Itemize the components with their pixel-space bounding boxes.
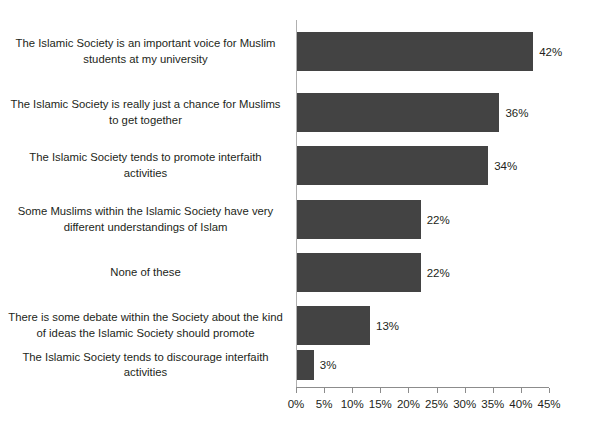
plot-area: 42%36%34%22%22%13%3% [296, 20, 549, 387]
bar [297, 253, 421, 292]
category-label: The Islamic Society is really just a cha… [0, 93, 291, 132]
bar-value-label: 36% [499, 107, 528, 119]
bar-row: 3% [296, 350, 549, 380]
x-axis-tick [493, 388, 494, 393]
bar [297, 93, 499, 132]
x-axis-tick-label: 15% [369, 396, 392, 412]
x-axis-tick-label: 0% [288, 396, 305, 412]
bar [297, 200, 421, 239]
x-axis-tick-labels: 0%5%10%15%20%25%30%35%40%45% [296, 396, 549, 414]
bar [297, 306, 370, 345]
x-axis-tick [437, 388, 438, 393]
x-axis-tick-label: 30% [453, 396, 476, 412]
x-axis-tick-label: 45% [537, 396, 560, 412]
bar-row: 22% [296, 253, 549, 292]
bar [297, 32, 533, 71]
x-axis-tick [380, 388, 381, 393]
bar-row: 36% [296, 93, 549, 132]
category-label: None of these [0, 253, 291, 292]
x-axis-tick-label: 35% [481, 396, 504, 412]
category-label: The Islamic Society tends to discourage … [0, 350, 291, 380]
x-axis-tick [296, 388, 297, 393]
bar-value-label: 22% [421, 267, 450, 279]
bar-value-label: 22% [421, 214, 450, 226]
category-label: The Islamic Society tends to promote int… [0, 146, 291, 185]
x-axis-tick [521, 388, 522, 393]
x-axis-tick-label: 10% [341, 396, 364, 412]
category-label: The Islamic Society is an important voic… [0, 32, 291, 71]
bar-value-label: 13% [370, 320, 399, 332]
category-label-text: The Islamic Society is really just a cha… [8, 97, 283, 128]
x-axis-tick [352, 388, 353, 393]
category-label: Some Muslims within the Islamic Society … [0, 200, 291, 239]
bar-row: 42% [296, 32, 549, 71]
x-axis-tick [549, 388, 550, 393]
category-label-text: Some Muslims within the Islamic Society … [8, 204, 283, 235]
category-label-text: None of these [8, 265, 283, 281]
x-axis-tick-label: 25% [425, 396, 448, 412]
x-axis-tick-label: 40% [509, 396, 532, 412]
bar-row: 22% [296, 200, 549, 239]
x-axis-ticks [296, 388, 549, 394]
bar-row: 13% [296, 306, 549, 345]
category-label-text: The Islamic Society is an important voic… [8, 36, 283, 67]
bar-value-label: 3% [314, 359, 337, 371]
category-label: There is some debate within the Society … [0, 306, 291, 345]
bar [297, 146, 488, 185]
chart-title [0, 0, 596, 5]
x-axis-tick [324, 388, 325, 393]
x-axis-tick [465, 388, 466, 393]
bar-chart: The Islamic Society is an important voic… [0, 0, 596, 431]
bar [297, 350, 314, 380]
category-label-text: The Islamic Society tends to promote int… [8, 150, 283, 181]
bar-row: 34% [296, 146, 549, 185]
category-label-text: The Islamic Society tends to discourage … [8, 350, 283, 381]
x-axis-tick-label: 5% [316, 396, 333, 412]
x-axis-tick [408, 388, 409, 393]
bar-value-label: 34% [488, 160, 517, 172]
bar-value-label: 42% [533, 46, 562, 58]
category-label-text: There is some debate within the Society … [8, 310, 283, 341]
x-axis-tick-label: 20% [397, 396, 420, 412]
